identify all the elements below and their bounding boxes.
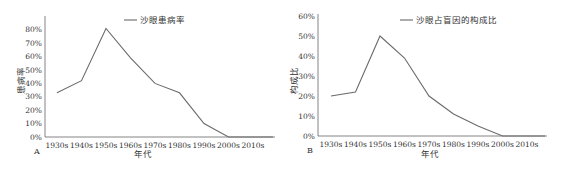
x-tick-label: 1930s — [46, 141, 69, 150]
chart-a: 0%10%20%30%40%50%60%70%80% 1930s1940s195… — [16, 15, 275, 159]
x-tick-label: 1950s — [369, 140, 392, 149]
x-tick-label: 1980s — [168, 141, 191, 150]
x-tick-labels: 1930s1940s1950s1960s1970s1980s1990s2000s… — [46, 141, 265, 150]
x-tick-label: 1960s — [393, 140, 416, 149]
x-tick-labels: 1930s1940s1950s1960s1970s1980s1990s2000s… — [320, 140, 539, 149]
legend-label: 沙眼患病率 — [140, 15, 185, 25]
x-tick-label: 1990s — [467, 140, 490, 149]
data-line — [57, 29, 273, 138]
x-tick-label: 1980s — [442, 140, 465, 149]
x-tick-label: 1930s — [320, 140, 343, 149]
y-tick-label: 40% — [25, 79, 42, 88]
x-tick-label: 1950s — [95, 141, 118, 150]
x-tick-label: 2010s — [242, 141, 265, 150]
y-tick-label: 60% — [25, 52, 42, 61]
x-tick-label: 1940s — [70, 141, 93, 150]
y-axis-label: 患病率 — [16, 67, 26, 94]
x-tick-label: 2000s — [217, 141, 240, 150]
panel-label: A — [33, 147, 40, 156]
panel-label: B — [307, 146, 313, 155]
chart-b: 0%10%20%30%40%50%60% 1930s1940s1950s1960… — [289, 12, 547, 160]
x-tick-label: 2010s — [516, 140, 539, 149]
x-tick-label: 1970s — [418, 140, 441, 149]
y-tick-label: 0% — [30, 133, 42, 142]
y-tick-label: 10% — [298, 112, 315, 121]
x-tick-label: 1990s — [193, 141, 216, 150]
y-tick-label: 50% — [25, 66, 42, 75]
x-tick-label: 1940s — [344, 140, 367, 149]
y-tick-label: 50% — [298, 32, 315, 41]
y-tick-label: 30% — [298, 72, 315, 81]
legend-label: 沙眼占盲因的构成比 — [416, 15, 497, 25]
y-tick-label: 60% — [298, 12, 315, 21]
y-tick-labels: 0%10%20%30%40%50%60% — [298, 12, 315, 141]
y-tick-label: 0% — [303, 132, 315, 141]
x-axis-label: 年代 — [134, 149, 152, 159]
y-tick-label: 10% — [25, 119, 42, 128]
y-tick-label: 20% — [25, 106, 42, 115]
data-line — [331, 36, 545, 136]
y-tick-labels: 0%10%20%30%40%50%60%70%80% — [25, 25, 42, 141]
y-tick-label: 20% — [298, 92, 315, 101]
y-tick-label: 30% — [25, 92, 42, 101]
y-tick-label: 70% — [25, 39, 42, 48]
y-axis-label: 构成比 — [289, 67, 299, 94]
y-tick-label: 40% — [298, 52, 315, 61]
x-axis-label: 年代 — [421, 149, 439, 159]
y-tick-label: 80% — [25, 25, 42, 34]
figure: 0%10%20%30%40%50%60%70%80% 1930s1940s195… — [0, 0, 562, 169]
x-tick-label: 2000s — [491, 140, 514, 149]
